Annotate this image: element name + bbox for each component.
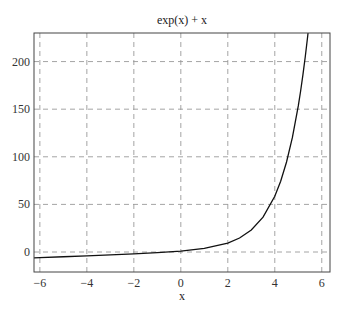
x-tick-label: −2 (127, 276, 140, 290)
chart-title: exp(x) + x (157, 13, 207, 27)
x-axis-ticks: −6−4−20246 (33, 276, 324, 290)
x-tick-label: −4 (80, 276, 93, 290)
plot-area (34, 33, 330, 272)
y-tick-label: 50 (18, 197, 30, 211)
x-tick-label: 6 (319, 276, 325, 290)
y-tick-label: 0 (24, 245, 30, 259)
y-tick-label: 150 (12, 102, 30, 116)
x-tick-label: −6 (33, 276, 46, 290)
chart: −6−4−20246 050100150200 exp(x) + x x (0, 0, 353, 312)
y-axis-ticks: 050100150200 (12, 55, 30, 259)
y-tick-label: 200 (12, 55, 30, 69)
x-tick-label: 2 (225, 276, 231, 290)
x-tick-label: 4 (272, 276, 278, 290)
x-tick-label: 0 (178, 276, 184, 290)
y-tick-label: 100 (12, 150, 30, 164)
x-axis-label: x (179, 289, 185, 303)
